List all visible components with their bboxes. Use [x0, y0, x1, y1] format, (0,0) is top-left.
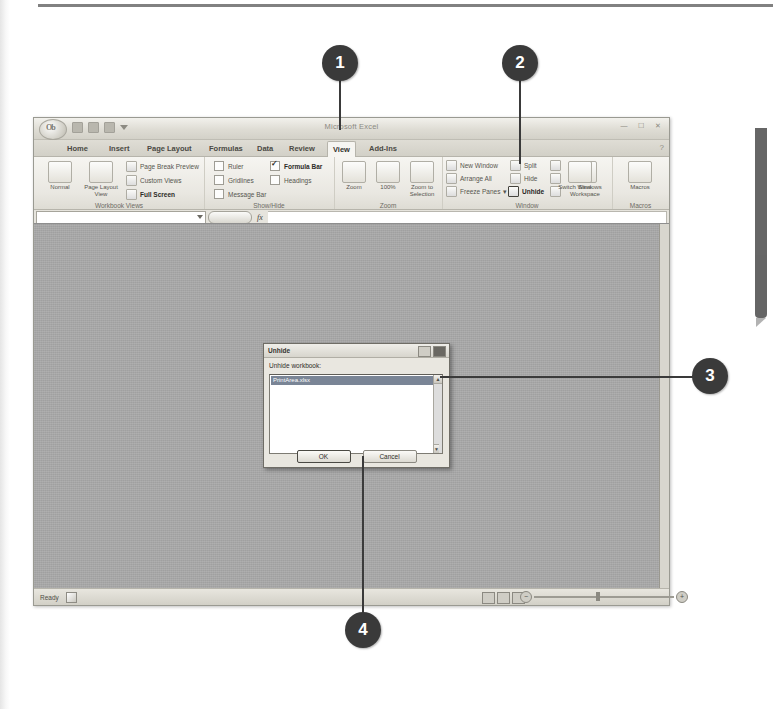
chevron-down-icon[interactable]: ▾ [503, 188, 507, 196]
tab-home[interactable]: Home [62, 141, 93, 156]
freeze-panes-label: Freeze Panes [460, 188, 500, 195]
ribbon-group-show-hide: Ruler Gridlines Message Bar Formula Bar … [204, 157, 335, 209]
checkbox-formula-bar[interactable]: Formula Bar [270, 161, 322, 171]
callout-2-leader [519, 72, 521, 164]
split-button[interactable]: Split [510, 160, 537, 171]
full-screen-icon [126, 189, 137, 200]
message-bar-checkbox-icon[interactable] [214, 189, 224, 199]
message-bar-label: Message Bar [228, 191, 266, 198]
zoom-to-selection-button[interactable]: Zoom to Selection [404, 159, 440, 198]
cancel-button[interactable]: Cancel [363, 450, 417, 463]
split-label: Split [524, 162, 537, 169]
tab-review[interactable]: Review [284, 141, 320, 156]
minimize-button[interactable]: — [617, 120, 631, 132]
app-title: Microsoft Excel [34, 122, 669, 131]
zoom-slider-handle[interactable] [596, 592, 600, 601]
arrange-all-label: Arrange All [460, 175, 492, 182]
normal-view-button[interactable]: Normal [44, 159, 76, 191]
checkbox-message-bar[interactable]: Message Bar [214, 189, 266, 199]
formula-bar-checkbox-icon[interactable] [270, 161, 280, 171]
ribbon-group-zoom: Zoom 100% Zoom to Selection Zoom [334, 157, 443, 209]
group-label-macros: Macros [612, 202, 669, 209]
tab-add-ins[interactable]: Add-Ins [364, 141, 402, 156]
page-top-rule [38, 4, 773, 7]
list-item[interactable]: PrintArea.xlsx [271, 376, 441, 385]
page-break-preview-label: Page Break Preview [140, 163, 199, 170]
callout-4-leader [362, 456, 364, 621]
macros-button[interactable]: Macros [624, 159, 656, 191]
page-layout-button-status[interactable] [497, 592, 510, 604]
arrange-all-button[interactable]: Arrange All [446, 173, 492, 184]
view-shortcut-buttons[interactable] [482, 592, 525, 604]
dialog-title-bar: Unhide [264, 344, 449, 358]
page-break-preview-icon [126, 161, 137, 172]
page-break-preview-button[interactable]: Page Break Preview [126, 161, 199, 172]
zoom-in-button[interactable]: + [676, 591, 688, 603]
status-text: Ready [34, 594, 59, 601]
chevron-down-icon[interactable] [197, 215, 203, 219]
restore-button[interactable]: ☐ [634, 120, 648, 132]
hide-button[interactable]: Hide [510, 173, 537, 184]
checkbox-gridlines[interactable]: Gridlines [214, 175, 254, 185]
switch-windows-icon [568, 161, 592, 183]
checkbox-headings[interactable]: Headings [270, 175, 311, 185]
unhide-dialog: Unhide Unhide workbook: PrintArea.xlsx ▲… [263, 343, 450, 468]
callout-2: 2 [502, 45, 538, 81]
freeze-panes-button[interactable]: Freeze Panes ▾ [446, 186, 507, 197]
ok-button[interactable]: OK [297, 450, 351, 463]
page-layout-view-label: Page Layout View [82, 184, 120, 198]
dialog-buttons: OK Cancel [264, 450, 449, 463]
window-controls[interactable]: — ☐ ✕ [617, 120, 665, 132]
tab-view[interactable]: View [327, 141, 356, 158]
listbox-scrollbar[interactable]: ▲ ▼ [433, 375, 442, 453]
switch-windows-label: Switch Windows [558, 184, 602, 191]
zoom-magnifier-icon [342, 161, 366, 183]
zoom-button[interactable]: Zoom [338, 159, 370, 191]
unhide-button[interactable]: Unhide [508, 186, 544, 197]
page-layout-view-button[interactable]: Page Layout View [82, 159, 120, 198]
hide-label: Hide [524, 175, 537, 182]
tab-page-layout[interactable]: Page Layout [142, 141, 197, 156]
normal-view-button-status[interactable] [482, 592, 495, 604]
ruler-label: Ruler [228, 163, 244, 170]
insert-function-icon[interactable]: fx [254, 213, 266, 222]
unhide-workbook-listbox[interactable]: PrintArea.xlsx ▲ ▼ [269, 374, 443, 454]
switch-windows-button[interactable]: Switch Windows [558, 159, 602, 191]
tab-data[interactable]: Data [252, 141, 278, 156]
callout-3-leader [440, 376, 698, 378]
zoom-label: Zoom [338, 184, 370, 191]
ruler-checkbox-icon[interactable] [214, 161, 224, 171]
status-bar: Ready − + [34, 588, 669, 605]
help-icon[interactable] [418, 346, 431, 357]
vertical-scrollbar[interactable] [659, 224, 669, 588]
close-button[interactable]: ✕ [651, 120, 665, 132]
zoom-100-label: 100% [372, 184, 404, 191]
unhide-icon [508, 186, 519, 197]
zoom-to-selection-icon [410, 161, 434, 183]
new-window-button[interactable]: New Window [446, 160, 498, 171]
custom-views-label: Custom Views [140, 177, 181, 184]
zoom-100-button[interactable]: 100% [372, 159, 404, 191]
ribbon-group-macros: Macros Macros [612, 157, 669, 209]
zoom-100-icon [376, 161, 400, 183]
headings-checkbox-icon[interactable] [270, 175, 280, 185]
close-icon[interactable] [433, 346, 446, 357]
dialog-title-buttons[interactable] [418, 346, 446, 357]
help-question-icon[interactable]: ? [660, 143, 664, 152]
custom-views-button[interactable]: Custom Views [126, 175, 181, 186]
ribbon-group-workbook-views: Normal Page Layout View Page Break Previ… [34, 157, 205, 209]
normal-view-label: Normal [44, 184, 76, 191]
record-macro-icon[interactable] [66, 592, 77, 603]
zoom-slider[interactable]: − + [534, 596, 674, 598]
headings-label: Headings [284, 177, 311, 184]
zoom-out-button[interactable]: − [520, 591, 532, 603]
new-window-label: New Window [460, 162, 498, 169]
tab-formulas[interactable]: Formulas [204, 141, 248, 156]
checkbox-ruler[interactable]: Ruler [214, 161, 244, 171]
gridlines-checkbox-icon[interactable] [214, 175, 224, 185]
new-window-icon [446, 160, 457, 171]
page-edge-tab [755, 128, 767, 318]
tab-insert[interactable]: Insert [104, 141, 134, 156]
zoom-to-selection-label: Zoom to Selection [404, 184, 440, 198]
full-screen-button[interactable]: Full Screen [126, 189, 175, 200]
